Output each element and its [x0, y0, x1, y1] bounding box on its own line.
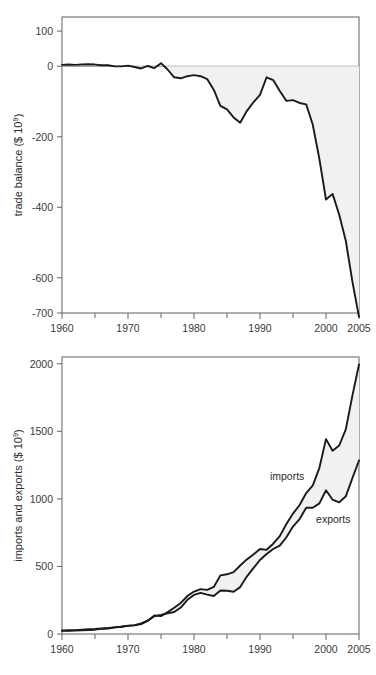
- y-tick-label: -400: [32, 201, 53, 213]
- y-axis-title-text: trade balance ($ 109): [11, 114, 25, 217]
- x-tick-label: 2005: [347, 322, 371, 334]
- x-tick-label: 1980: [182, 322, 206, 334]
- x-tick-label: 1990: [248, 643, 272, 655]
- import-export-gap-area: [62, 364, 359, 630]
- x-tick-label: 1990: [248, 322, 272, 334]
- x-tick-label: 2000: [314, 322, 338, 334]
- plot-frame: [62, 17, 359, 313]
- trade-figure: 1000-200-400-600-70019601970198019902000…: [0, 0, 376, 675]
- trade-balance-area: [62, 63, 359, 317]
- y-tick-label: 500: [35, 560, 53, 572]
- y-tick-label: 1500: [30, 425, 54, 437]
- y-tick-label: -600: [32, 272, 53, 284]
- y-tick-label: -200: [32, 131, 53, 143]
- series-label-imports: imports: [270, 470, 304, 482]
- trade-balance-chart: 1000-200-400-600-70019601970198019902000…: [0, 0, 376, 340]
- series-label-exports: exports: [316, 513, 350, 525]
- y-axis-title-text: imports and exports ($ 109): [11, 429, 25, 562]
- x-tick-label: 1970: [116, 643, 140, 655]
- x-tick-label: 2005: [347, 643, 371, 655]
- x-tick-label: 2000: [314, 643, 338, 655]
- panel-imports-exports: 2000150010005000196019701980199020002005…: [0, 335, 376, 675]
- y-axis-title: trade balance ($ 109): [11, 114, 25, 217]
- x-tick-label: 1980: [182, 643, 206, 655]
- x-tick-label: 1960: [50, 322, 74, 334]
- y-tick-label: 100: [35, 25, 53, 37]
- y-tick-label: 0: [47, 60, 53, 72]
- imports-exports-chart: 2000150010005000196019701980199020002005…: [0, 335, 376, 675]
- y-tick-label: 1000: [30, 493, 54, 505]
- x-tick-label: 1960: [50, 643, 74, 655]
- y-axis-title: imports and exports ($ 109): [11, 429, 25, 562]
- y-tick-label: -700: [32, 307, 53, 319]
- panel-trade-balance: 1000-200-400-600-70019601970198019902000…: [0, 0, 376, 340]
- y-tick-label: 0: [47, 628, 53, 640]
- y-tick-label: 2000: [30, 358, 54, 370]
- x-tick-label: 1970: [116, 322, 140, 334]
